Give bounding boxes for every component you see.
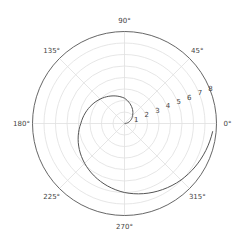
angle-label-315: 315° xyxy=(189,193,206,201)
radius-label-8: 8 xyxy=(208,85,212,93)
angle-tick-labels: 0°45°90°135°180°225°270°315° xyxy=(13,17,231,231)
angle-label-225: 225° xyxy=(43,193,60,201)
angle-label-45: 45° xyxy=(191,47,203,55)
angle-label-0: 0° xyxy=(224,120,232,128)
radius-label-1: 1 xyxy=(134,116,138,124)
radius-label-3: 3 xyxy=(155,107,159,115)
radius-label-5: 5 xyxy=(176,98,180,106)
angle-label-135: 135° xyxy=(43,47,60,55)
radius-label-6: 6 xyxy=(187,94,192,102)
angle-label-90: 90° xyxy=(118,17,130,25)
polar-chart: 0°45°90°135°180°225°270°315° 12345678 xyxy=(0,0,242,243)
grid-spoke xyxy=(59,124,124,189)
angle-label-270: 270° xyxy=(116,223,133,231)
radius-label-7: 7 xyxy=(198,89,202,97)
radius-label-2: 2 xyxy=(145,111,149,119)
radius-label-4: 4 xyxy=(166,102,171,110)
grid-spoke xyxy=(125,124,190,189)
radius-tick-labels: 12345678 xyxy=(134,85,213,124)
grid-spoke xyxy=(59,58,124,123)
angle-label-180: 180° xyxy=(13,120,30,128)
